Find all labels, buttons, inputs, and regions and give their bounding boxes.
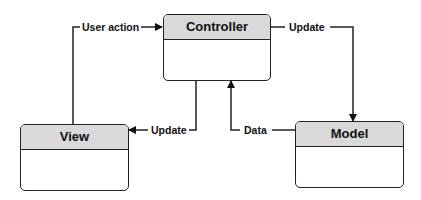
model-node[interactable]: Model bbox=[295, 121, 404, 188]
controller-node[interactable]: Controller bbox=[163, 14, 271, 81]
edge-data-arrow bbox=[231, 81, 240, 130]
model-title: Model bbox=[296, 122, 403, 147]
view-title: View bbox=[21, 125, 128, 150]
label-user-action: User action bbox=[80, 21, 141, 33]
edge-update-model-arrow bbox=[330, 27, 353, 121]
view-node[interactable]: View bbox=[20, 124, 129, 191]
label-update-model: Update bbox=[287, 21, 327, 33]
label-update-view: Update bbox=[149, 124, 189, 136]
edge-user-action bbox=[73, 27, 80, 124]
label-data: Data bbox=[242, 124, 269, 136]
controller-title: Controller bbox=[164, 15, 270, 40]
edge-update-view bbox=[188, 80, 196, 130]
